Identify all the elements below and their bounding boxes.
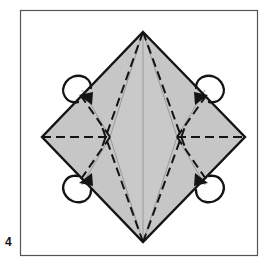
origami-step-figure: 4: [0, 0, 265, 268]
origami-diagram-canvas: [0, 0, 265, 268]
step-number-label: 4: [5, 236, 12, 248]
